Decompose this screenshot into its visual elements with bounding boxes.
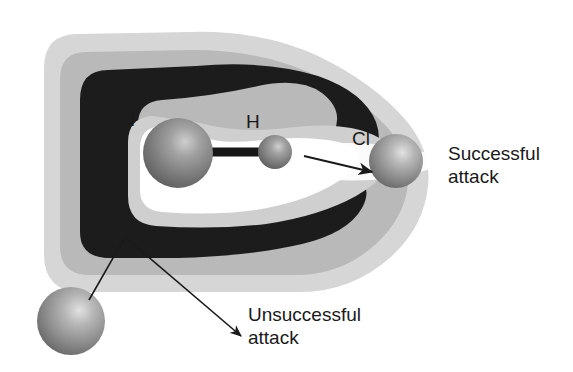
chlorine-atom-unsuccessful	[37, 287, 105, 355]
successful-attack-caption: Successful attack	[448, 142, 540, 188]
unsuccessful-attack-caption-line2: attack	[248, 326, 361, 349]
chlorine-atom-successful	[369, 134, 423, 188]
iodine-atom	[143, 118, 213, 188]
unsuccessful-attack-arrow	[125, 237, 241, 336]
successful-attack-caption-line2: attack	[448, 165, 540, 188]
unsuccessful-attack-caption: Unsuccessful attack	[248, 303, 361, 349]
unsuccessful-attack-caption-line1: Unsuccessful	[248, 303, 361, 326]
successful-attack-arrow	[304, 156, 372, 172]
chlorine-label: Cl	[352, 129, 370, 148]
successful-attack-caption-line1: Successful	[448, 142, 540, 165]
hydrogen-atom	[258, 135, 292, 169]
unsuccessful-leader-line	[89, 237, 125, 300]
potential-energy-contour-figure: I H Cl Successful attack Unsuccessful at…	[0, 0, 573, 372]
hydrogen-label: H	[246, 112, 260, 131]
iodine-label: I	[130, 110, 135, 129]
